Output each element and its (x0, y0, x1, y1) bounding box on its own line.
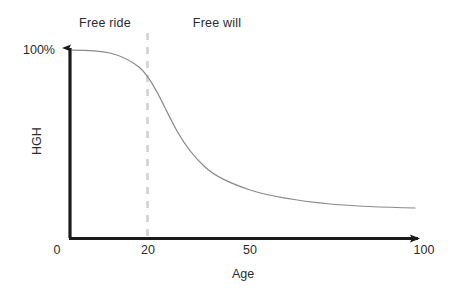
annotation-free-will: Free will (193, 17, 241, 30)
x-tick-label-0: 0 (54, 244, 61, 257)
hgh-vs-age-chart: Free ride Free will 100% HGH 0 20 50 100… (0, 0, 452, 296)
x-axis-title: Age (232, 268, 254, 281)
x-tick-label-20: 20 (141, 244, 155, 257)
x-tick-label-100: 100 (414, 244, 435, 257)
y-tick-label-100: 100% (23, 44, 55, 57)
annotation-free-ride: Free ride (79, 17, 131, 30)
x-tick-label-50: 50 (243, 244, 257, 257)
chart-canvas (0, 0, 452, 296)
y-axis-title: HGH (31, 127, 44, 155)
hgh-curve (72, 50, 415, 208)
